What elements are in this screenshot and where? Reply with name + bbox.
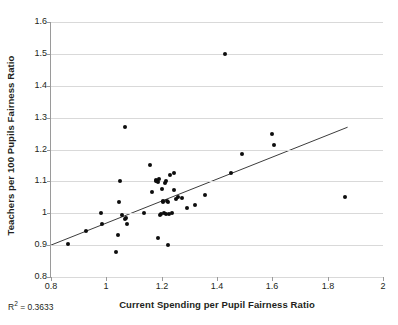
data-point: [150, 190, 154, 194]
x-axis-tick-label: 1.6: [266, 281, 279, 291]
y-axis-tick-labels: 0.80.911.11.21.31.41.51.6: [18, 22, 47, 277]
x-axis-tick-label: 1.4: [211, 281, 224, 291]
y-axis-tick-label: 1.4: [34, 80, 47, 90]
data-point: [270, 132, 274, 136]
y-axis-tick-mark: [47, 22, 51, 23]
gridline-horizontal: [51, 118, 383, 119]
data-point: [229, 171, 233, 175]
data-point: [223, 52, 227, 56]
y-axis-tick-label: 1.6: [34, 16, 47, 26]
data-point: [84, 229, 88, 233]
gridline-horizontal: [51, 181, 383, 182]
data-point: [156, 236, 160, 240]
data-point: [172, 171, 176, 175]
y-axis-tick-label: 1.3: [34, 112, 47, 122]
y-axis-tick-label: 1.2: [34, 144, 47, 154]
x-axis-tick-label: 1.2: [156, 281, 169, 291]
data-point: [125, 222, 129, 226]
y-axis-tick-mark: [47, 118, 51, 119]
data-point: [185, 206, 189, 210]
data-point: [157, 177, 161, 181]
gridline-horizontal: [51, 86, 383, 87]
data-point: [123, 125, 127, 129]
x-axis-tick-label: 0.8: [45, 281, 58, 291]
plot-area: [51, 22, 383, 277]
data-point: [240, 152, 244, 156]
x-axis-tick-label: 1: [103, 281, 108, 291]
y-axis-tick-label: 0.8: [34, 271, 47, 281]
data-point: [164, 179, 168, 183]
scatter-chart-figure: Teachers per 100 Pupils Fairness Ratio 0…: [0, 0, 398, 325]
data-point: [66, 242, 70, 246]
y-axis-tick-mark: [47, 181, 51, 182]
y-axis-tick-mark: [47, 150, 51, 151]
y-axis-tick-label: 1: [42, 207, 47, 217]
x-axis-tick-label: 2: [380, 281, 385, 291]
data-point: [170, 211, 174, 215]
y-axis-tick-label: 1.5: [34, 48, 47, 58]
data-point: [116, 233, 120, 237]
y-axis-tick-label: 0.9: [34, 239, 47, 249]
x-axis-tick-labels: 0.811.21.41.61.82: [51, 281, 383, 295]
data-point: [160, 187, 164, 191]
y-axis-tick-mark: [47, 245, 51, 246]
x-axis-title: Current Spending per Pupil Fairness Rati…: [51, 299, 383, 310]
y-axis-title-label: Teachers per 100 Pupils Fairness Ratio: [6, 55, 17, 235]
r-squared-annotation: R2 = 0.3633: [8, 300, 53, 312]
data-point: [117, 200, 121, 204]
data-point: [180, 196, 184, 200]
y-axis-tick-mark: [47, 213, 51, 214]
gridline-horizontal: [51, 54, 383, 55]
y-axis-tick-label: 1.1: [34, 175, 47, 185]
y-axis-tick-mark: [47, 54, 51, 55]
y-axis-tick-mark: [47, 86, 51, 87]
x-axis-tick-label: 1.8: [322, 281, 335, 291]
gridline-horizontal: [51, 150, 383, 151]
gridline-horizontal: [51, 22, 383, 23]
data-point: [148, 163, 152, 167]
gridline-horizontal: [51, 245, 383, 246]
